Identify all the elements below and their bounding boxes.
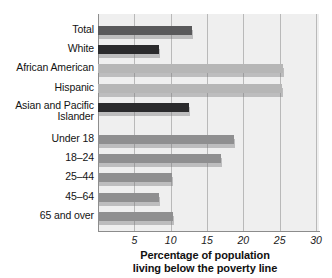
category-label-line: Total bbox=[0, 24, 94, 35]
category-labels: TotalWhiteAfrican AmericanHispanicAsian … bbox=[0, 0, 94, 232]
bar bbox=[98, 135, 234, 144]
x-tick-label-25: 25 bbox=[274, 234, 286, 246]
x-tick-label-10: 10 bbox=[165, 234, 177, 246]
bar bbox=[98, 212, 173, 221]
category-label: Under 18 bbox=[0, 133, 94, 144]
bar bbox=[98, 103, 189, 112]
gridline-10 bbox=[171, 14, 172, 232]
gridline-25 bbox=[280, 14, 281, 232]
category-label: White bbox=[0, 43, 94, 54]
bar bbox=[98, 173, 172, 182]
category-label: Hispanic bbox=[0, 82, 94, 93]
bar bbox=[98, 154, 221, 163]
category-label: 65 and over bbox=[0, 210, 94, 221]
poverty-bar-chart: TotalWhiteAfrican AmericanHispanicAsian … bbox=[0, 0, 332, 278]
category-label-line: 45–64 bbox=[0, 191, 94, 202]
x-axis-title: Percentage of population living below th… bbox=[80, 249, 330, 275]
category-label-line: 18–24 bbox=[0, 152, 94, 163]
category-label-line: Under 18 bbox=[0, 133, 94, 144]
bar bbox=[98, 193, 159, 202]
x-tick-label-30: 30 bbox=[310, 234, 322, 246]
x-axis-title-line1: Percentage of population bbox=[80, 249, 330, 262]
category-label-line: Hispanic bbox=[0, 82, 94, 93]
category-label: 45–64 bbox=[0, 191, 94, 202]
category-label-line: Islander bbox=[0, 111, 94, 122]
x-axis-title-line2: living below the poverty line bbox=[80, 262, 330, 275]
category-label: Asian and PacificIslander bbox=[0, 100, 94, 122]
x-tick-label-15: 15 bbox=[201, 234, 213, 246]
gridline-15 bbox=[207, 14, 208, 232]
bar bbox=[98, 45, 159, 54]
category-label: African American bbox=[0, 62, 94, 73]
gridline-30 bbox=[316, 14, 317, 232]
category-label-line: 25–44 bbox=[0, 171, 94, 182]
category-label: 18–24 bbox=[0, 152, 94, 163]
gridline-20 bbox=[243, 14, 244, 232]
plot-area bbox=[98, 14, 319, 232]
category-label-line: 65 and over bbox=[0, 210, 94, 221]
category-label: Total bbox=[0, 24, 94, 35]
bar bbox=[98, 84, 282, 93]
bar bbox=[98, 26, 192, 35]
x-axis-line bbox=[98, 231, 320, 232]
category-label-line: African American bbox=[0, 62, 94, 73]
x-tick-label-20: 20 bbox=[237, 234, 249, 246]
bar bbox=[98, 64, 283, 73]
category-label: 25–44 bbox=[0, 171, 94, 182]
category-label-line: White bbox=[0, 43, 94, 54]
x-tick-label-5: 5 bbox=[131, 234, 137, 246]
